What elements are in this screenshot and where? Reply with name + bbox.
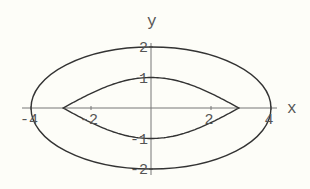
- y-axis-label: y: [147, 13, 157, 31]
- y-tick-label: 1: [139, 71, 148, 88]
- y-tick-label: 2: [139, 40, 148, 57]
- y-tick-label: -1: [130, 132, 148, 149]
- plot-canvas: -4-224-2-112xy: [0, 0, 310, 189]
- y-tick-label: -2: [130, 162, 148, 179]
- labels: -4-224-2-112xy: [20, 13, 297, 179]
- x-tick-label: 2: [204, 112, 213, 129]
- axes: [22, 43, 277, 175]
- x-tick-label: 4: [264, 112, 273, 129]
- x-axis-label: x: [287, 100, 297, 118]
- x-tick-label: -4: [20, 112, 38, 129]
- x-tick-label: -2: [80, 112, 98, 129]
